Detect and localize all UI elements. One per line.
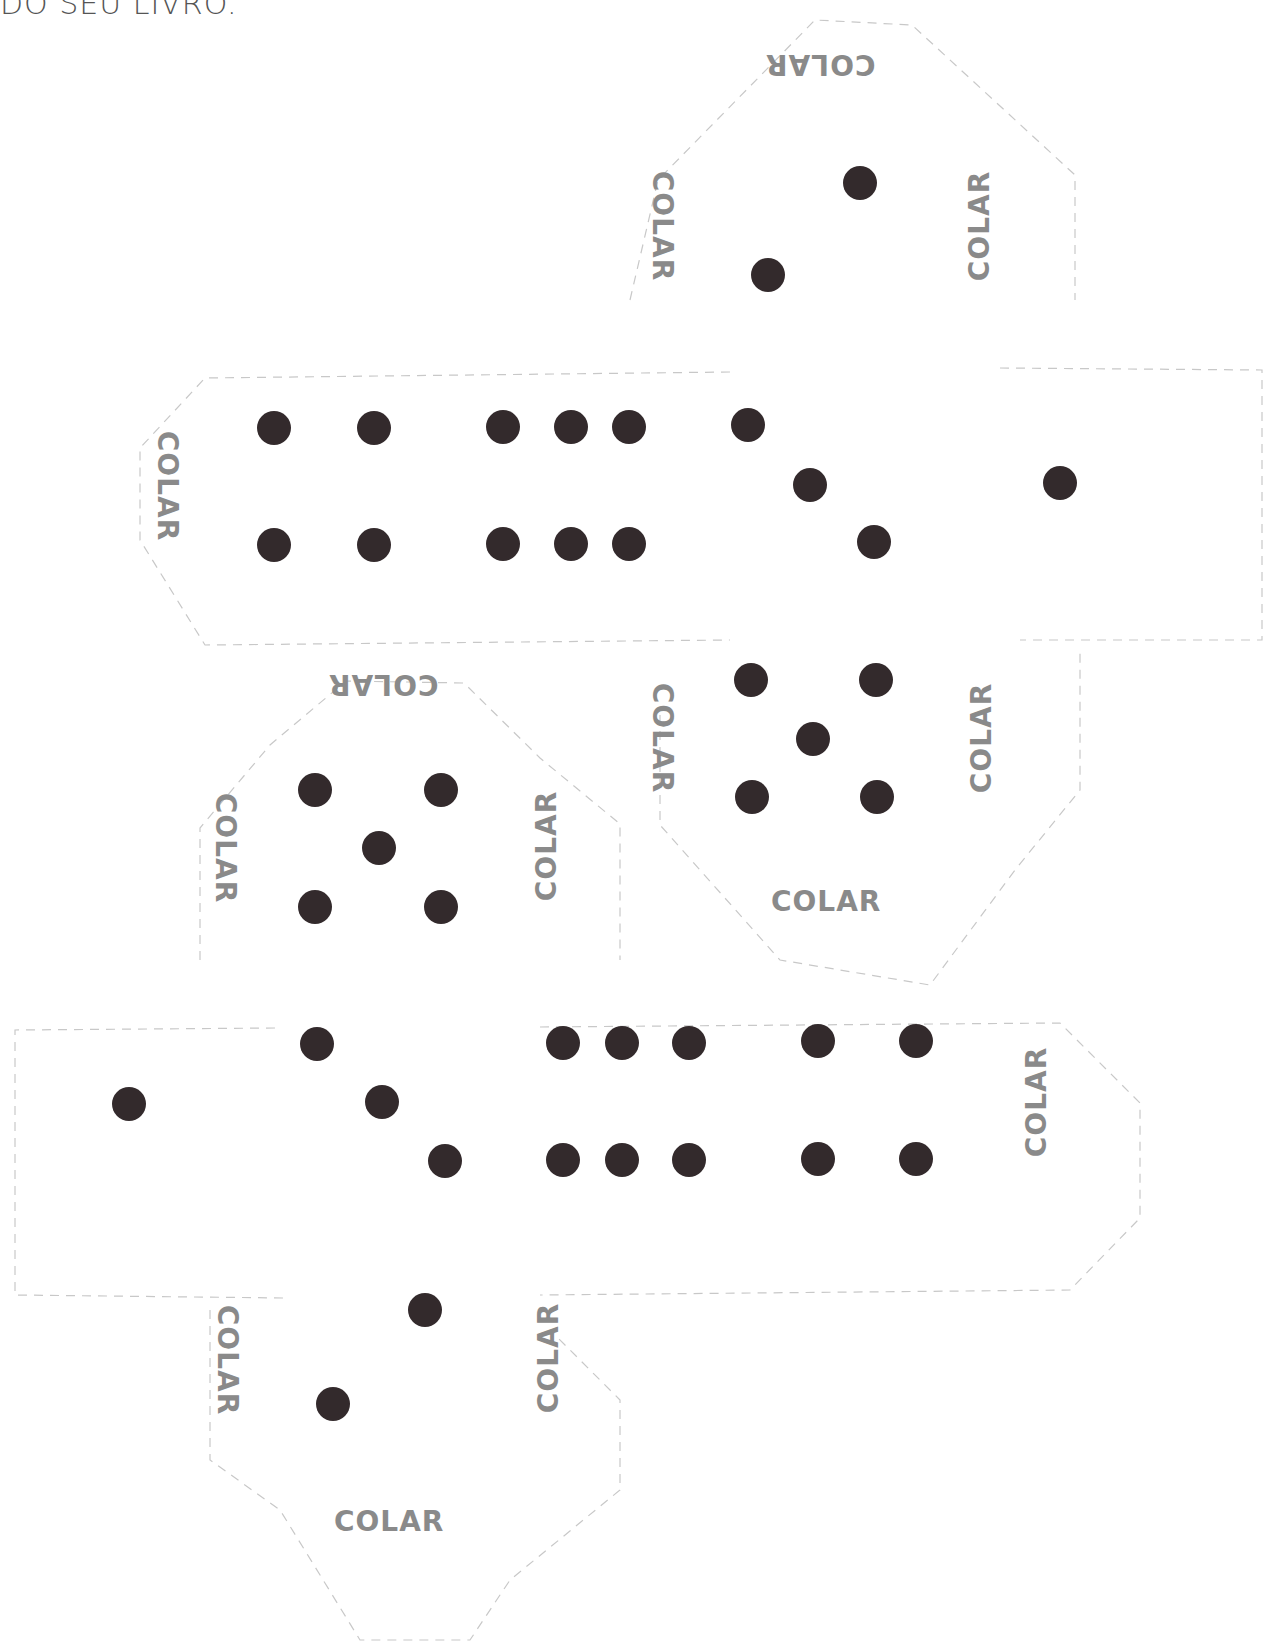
pip bbox=[428, 1144, 462, 1178]
glue-label-bottom-tab-left: COLAR bbox=[213, 1305, 241, 1415]
pip bbox=[860, 780, 894, 814]
pip bbox=[801, 1024, 835, 1058]
pip bbox=[257, 528, 291, 562]
glue-label-strip1-left: COLAR bbox=[153, 431, 181, 541]
pip bbox=[257, 411, 291, 445]
pip bbox=[731, 408, 765, 442]
strip2-outline bbox=[15, 1028, 285, 1298]
glue-label-bottom-tab-right: COLAR bbox=[535, 1303, 563, 1413]
glue-label-mid-left-left: COLAR bbox=[211, 793, 239, 903]
glue-label-bottom-tab-bottom: COLAR bbox=[334, 1508, 444, 1536]
pip bbox=[612, 527, 646, 561]
pip bbox=[735, 780, 769, 814]
pip bbox=[298, 773, 332, 807]
pip bbox=[843, 166, 877, 200]
pip bbox=[605, 1026, 639, 1060]
pip bbox=[859, 663, 893, 697]
glue-label-mid-left-top: COLAR bbox=[328, 670, 438, 698]
strip1-pips bbox=[257, 408, 1077, 562]
pip bbox=[554, 527, 588, 561]
pip bbox=[546, 1143, 580, 1177]
pip bbox=[1043, 466, 1077, 500]
pip bbox=[362, 831, 396, 865]
pip bbox=[857, 525, 891, 559]
glue-label-mid-right-right: COLAR bbox=[968, 683, 996, 793]
pip bbox=[486, 410, 520, 444]
pip bbox=[672, 1026, 706, 1060]
pip bbox=[316, 1387, 350, 1421]
glue-label-top-tab-right: COLAR bbox=[966, 171, 994, 281]
mid-right-pips bbox=[734, 663, 894, 814]
glue-label-top-tab-left: COLAR bbox=[648, 171, 676, 281]
strip1-outline-right bbox=[1000, 368, 1262, 640]
pip bbox=[365, 1085, 399, 1119]
dice-template bbox=[0, 0, 1268, 1651]
pip bbox=[554, 410, 588, 444]
glue-label-mid-left-right: COLAR bbox=[533, 791, 561, 901]
pip bbox=[112, 1087, 146, 1121]
strip2-pips bbox=[112, 1024, 933, 1178]
mid-left-pips bbox=[298, 773, 458, 924]
glue-label-top-tab-top: COLAR bbox=[765, 50, 875, 78]
pip bbox=[801, 1142, 835, 1176]
mid-right-outline bbox=[660, 650, 1080, 985]
pip bbox=[899, 1024, 933, 1058]
pip bbox=[298, 890, 332, 924]
pip bbox=[734, 663, 768, 697]
pip bbox=[357, 411, 391, 445]
pip bbox=[672, 1143, 706, 1177]
pip bbox=[408, 1293, 442, 1327]
pip bbox=[899, 1142, 933, 1176]
pip bbox=[424, 773, 458, 807]
pip bbox=[424, 890, 458, 924]
cut-lines bbox=[15, 20, 1262, 1640]
pip bbox=[751, 258, 785, 292]
pip bbox=[796, 722, 830, 756]
pip bbox=[612, 410, 646, 444]
pip bbox=[300, 1027, 334, 1061]
pip bbox=[486, 527, 520, 561]
pip bbox=[605, 1143, 639, 1177]
top-tab-pips bbox=[751, 166, 877, 292]
glue-label-strip2-right: COLAR bbox=[1023, 1047, 1051, 1157]
glue-label-mid-right-bottom: COLAR bbox=[771, 888, 881, 916]
pip bbox=[357, 528, 391, 562]
strip1-outline bbox=[140, 372, 730, 645]
pip bbox=[546, 1026, 580, 1060]
pip bbox=[793, 468, 827, 502]
bottom-tab-pips bbox=[316, 1293, 442, 1421]
glue-label-mid-right-left: COLAR bbox=[648, 683, 676, 793]
